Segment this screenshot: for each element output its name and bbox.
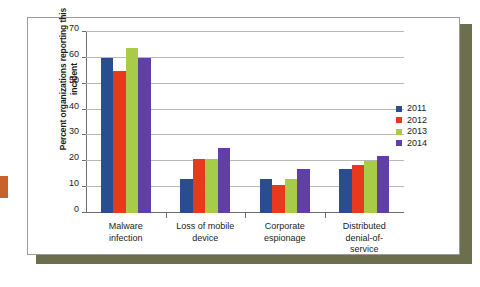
- y-tick-label: 40: [69, 101, 79, 111]
- legend-swatch-icon: [396, 129, 402, 135]
- y-tick-label: 50: [69, 75, 79, 85]
- page-edge-tab: [0, 176, 8, 198]
- figure-page: Percent organizations reporting this inc…: [0, 0, 480, 287]
- legend-item: 2011: [396, 103, 458, 114]
- legend-label: 2011: [407, 103, 426, 114]
- legend-swatch-icon: [396, 140, 402, 146]
- x-tick-mark: [325, 213, 326, 218]
- bar-chart: Percent organizations reporting this inc…: [28, 18, 461, 256]
- legend: 2011201220132014: [396, 103, 458, 149]
- x-category-label: Corporate espionage: [264, 221, 306, 244]
- x-category-label: Loss of mobile device: [176, 221, 234, 244]
- legend-swatch-icon: [396, 106, 402, 112]
- legend-swatch-icon: [396, 117, 402, 123]
- chart-card: Percent organizations reporting this inc…: [27, 17, 460, 255]
- y-tick-label: 20: [69, 152, 79, 162]
- legend-label: 2012: [407, 115, 427, 126]
- y-tick-label: 60: [69, 49, 79, 59]
- x-tick-mark: [245, 213, 246, 218]
- legend-item: 2014: [396, 138, 458, 149]
- y-tick-label: 70: [69, 23, 79, 33]
- x-axis: Malware infectionLoss of mobile deviceCo…: [86, 32, 404, 213]
- x-tick-mark: [166, 213, 167, 218]
- x-category-label: Distributed denial-of-service: [343, 221, 386, 256]
- y-tick-label: 10: [69, 178, 79, 188]
- legend-item: 2013: [396, 126, 458, 137]
- y-tick-label: 30: [69, 126, 79, 136]
- x-category-label: Malware infection: [109, 221, 143, 244]
- legend-item: 2012: [396, 115, 458, 126]
- legend-label: 2014: [407, 138, 427, 149]
- plot-area: 010203040506070 Malware infectionLoss of…: [86, 32, 404, 213]
- y-tick-label: 0: [74, 204, 79, 214]
- legend-label: 2013: [407, 126, 427, 137]
